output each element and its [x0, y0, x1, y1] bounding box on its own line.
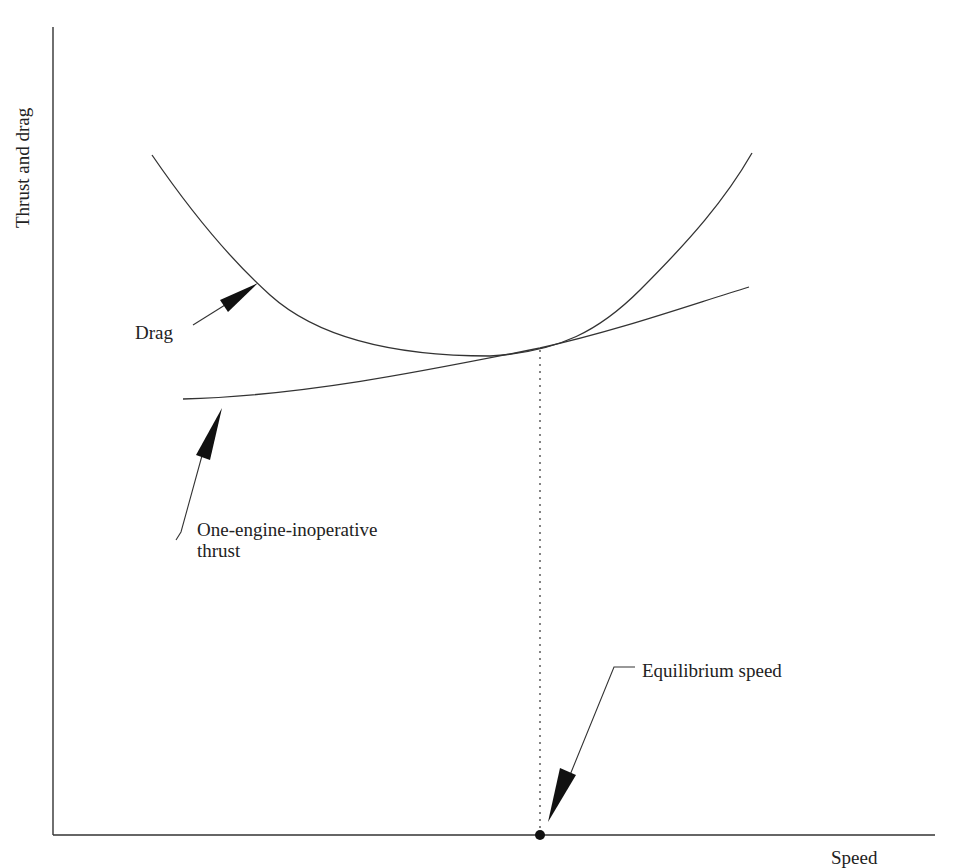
drag-curve: [152, 153, 752, 356]
equilibrium-point: [535, 830, 545, 840]
equilibrium-leader-line: [570, 667, 635, 775]
thrust-curve: [183, 287, 749, 399]
drag-leader-line: [193, 305, 225, 325]
thrust-label-line1: One-engine-inoperative: [197, 519, 377, 540]
equilibrium-arrowhead-icon: [548, 768, 576, 822]
thrust-label-line2: thrust: [197, 540, 240, 561]
drag-arrowhead-icon: [220, 283, 258, 312]
x-axis-label: Speed: [831, 847, 877, 868]
equilibrium-label: Equilibrium speed: [642, 660, 782, 681]
drag-label: Drag: [135, 322, 173, 343]
thrust-arrowhead-icon: [196, 408, 222, 460]
y-axis-label: Thrust and drag: [12, 108, 34, 228]
